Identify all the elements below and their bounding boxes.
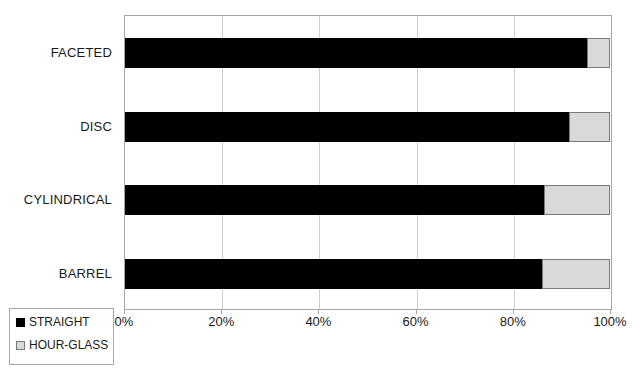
- bar-segment-hour-glass-cylindrical: [544, 185, 610, 215]
- bars-layer: [125, 16, 611, 309]
- xtick-label-100pct: 100%: [593, 314, 626, 329]
- legend-label: STRAIGHT: [29, 315, 90, 329]
- gray-square-icon: [16, 341, 25, 350]
- bar-segment-straight-barrel: [125, 259, 543, 289]
- xtick-label-20pct: 20%: [208, 314, 234, 329]
- category-label-barrel: BARREL: [59, 266, 112, 281]
- bar-row: [125, 112, 611, 142]
- legend-item-hour-glass[interactable]: HOUR-GLASS: [16, 338, 109, 352]
- bar-segment-hour-glass-faceted: [587, 38, 610, 68]
- chart-legend: STRAIGHTHOUR-GLASS: [9, 308, 114, 365]
- legend-label: HOUR-GLASS: [29, 338, 108, 352]
- plot-area: [124, 15, 612, 310]
- value-axis-labels: 0%20%40%60%80%100%: [124, 314, 612, 336]
- bar-segment-straight-faceted: [125, 38, 588, 68]
- bar-segment-hour-glass-barrel: [542, 259, 610, 289]
- xtick-label-60pct: 60%: [403, 314, 429, 329]
- category-label-cylindrical: CYLINDRICAL: [24, 192, 112, 207]
- bar-segment-straight-disc: [125, 112, 570, 142]
- gridline-100pct: [611, 16, 612, 309]
- bar-row: [125, 185, 611, 215]
- bar-segment-straight-cylindrical: [125, 185, 545, 215]
- category-label-disc: DISC: [80, 118, 112, 133]
- stacked-bar-chart: FACETEDDISCCYLINDRICALBARREL 0%20%40%60%…: [0, 0, 643, 379]
- category-axis-labels: FACETEDDISCCYLINDRICALBARREL: [0, 15, 118, 310]
- category-label-faceted: FACETED: [51, 44, 112, 59]
- xtick-label-80pct: 80%: [500, 314, 526, 329]
- xtick-label-40pct: 40%: [305, 314, 331, 329]
- xtick-label-0pct: 0%: [115, 314, 134, 329]
- legend-item-straight[interactable]: STRAIGHT: [16, 315, 109, 329]
- bar-row: [125, 259, 611, 289]
- bar-row: [125, 38, 611, 68]
- bar-segment-hour-glass-disc: [569, 112, 610, 142]
- black-square-icon: [16, 318, 25, 327]
